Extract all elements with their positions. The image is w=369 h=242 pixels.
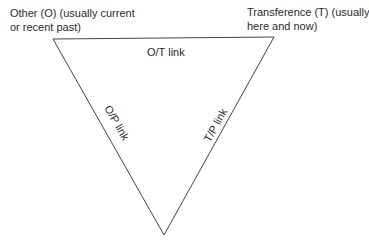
edge-label-ot: O/T link	[147, 46, 185, 58]
edge-label-op: O/P link	[102, 103, 132, 143]
triangle-shape	[53, 37, 274, 235]
